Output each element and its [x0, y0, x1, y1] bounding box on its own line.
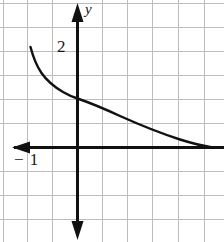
graph-figure: y 2 − 1	[0, 0, 224, 242]
curve-series-decreasing-curve	[31, 47, 213, 147]
y-axis-bottom-arrowhead	[72, 221, 84, 240]
x-tick-label-negative-1: − 1	[14, 151, 39, 168]
grid-lines	[0, 0, 224, 242]
y-axis-label: y	[85, 2, 92, 17]
y-axis	[72, 3, 84, 240]
y-axis-top-arrowhead	[72, 3, 84, 22]
coordinate-plane	[0, 0, 224, 242]
y-tick-label-2: 2	[57, 38, 66, 55]
